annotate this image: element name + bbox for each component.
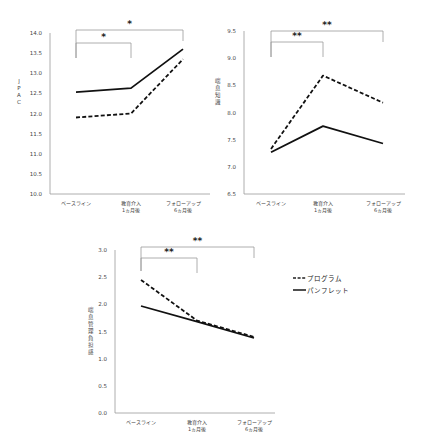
- series-line-pamphlet: [76, 49, 183, 92]
- y-tick-label: 3.0: [98, 247, 107, 253]
- significance-bracket: **: [141, 236, 254, 271]
- y-tick-label: 6.5: [227, 191, 236, 197]
- significance-marker: **: [193, 236, 203, 246]
- y-tick-label: 9.5: [227, 28, 236, 34]
- y-tick-label: 10.0: [30, 191, 43, 197]
- x-tick-label: 教育介入1ヵ月後: [121, 200, 141, 214]
- svg-text:息: 息: [215, 84, 221, 91]
- y-tick-label: 12.0: [30, 111, 43, 117]
- y-tick-label: 2.5: [98, 274, 107, 280]
- x-tick-label: ベースライン: [256, 200, 286, 207]
- svg-text:知: 知: [215, 91, 221, 99]
- y-tick-label: 10.5: [30, 171, 43, 177]
- significance-bracket: **: [271, 31, 323, 57]
- significance-bracket: **: [141, 247, 197, 273]
- y-tick-label: 11.5: [30, 131, 43, 137]
- significance-marker: *: [127, 19, 132, 29]
- significance-bracket: *: [76, 19, 183, 58]
- svg-text:A: A: [17, 92, 21, 98]
- svg-text:喘: 喘: [215, 77, 221, 85]
- significance-marker: *: [101, 32, 106, 42]
- y-tick-label: 13.0: [30, 70, 43, 76]
- x-tick-label: 教育介入1ヵ月後: [313, 200, 333, 214]
- chart-asthma-knowledge: 6.57.07.58.08.59.09.5喘息知識ベースライン教育介入1ヵ月後フ…: [215, 20, 405, 214]
- x-tick-label: フォローアップ6ヵ月後: [166, 200, 201, 214]
- legend-label-pamphlet: パンフレット: [307, 287, 349, 295]
- significance-bracket: *: [76, 32, 131, 58]
- figure: 10.010.511.011.512.012.513.013.514.0JPAC…: [0, 0, 422, 446]
- svg-text:J: J: [17, 78, 20, 85]
- y-tick-label: 11.0: [30, 151, 43, 157]
- svg-text:感: 感: [88, 348, 94, 355]
- x-tick-label: 教育介入1ヵ月後: [187, 419, 207, 433]
- significance-marker: **: [292, 31, 302, 41]
- x-tick-label: ベースライン: [126, 419, 156, 426]
- svg-text:喘: 喘: [88, 306, 94, 314]
- chart-asthma-management-burden: 0.00.51.01.52.02.53.0喘息管理負担感ベースライン教育介入1ヵ…: [88, 236, 275, 433]
- bracket-line: [271, 31, 383, 57]
- svg-text:識: 識: [215, 98, 221, 106]
- bracket-line: [141, 258, 197, 273]
- svg-text:息: 息: [88, 313, 94, 320]
- y-tick-label: 2.0: [98, 301, 107, 307]
- series-line-program: [141, 280, 254, 337]
- svg-text:C: C: [17, 99, 21, 105]
- significance-marker: **: [322, 20, 332, 30]
- y-tick-label: 7.5: [227, 137, 236, 143]
- y-tick-label: 1.0: [98, 356, 107, 362]
- y-tick-label: 8.0: [227, 110, 236, 116]
- y-tick-label: 9.0: [227, 55, 236, 61]
- y-tick-label: 8.5: [227, 82, 236, 88]
- series-line-pamphlet: [141, 306, 254, 338]
- x-tick-label: ベースライン: [61, 200, 91, 207]
- y-tick-label: 7.0: [227, 164, 236, 170]
- svg-text:負: 負: [88, 334, 94, 342]
- svg-text:理: 理: [88, 328, 94, 334]
- series-line-pamphlet: [271, 126, 383, 152]
- svg-text:管: 管: [88, 320, 94, 328]
- significance-bracket: **: [271, 20, 383, 57]
- svg-text:担: 担: [88, 341, 94, 348]
- legend: プログラム パンフレット: [293, 274, 349, 295]
- y-tick-label: 1.5: [98, 329, 107, 335]
- y-axis-label: 喘息管理負担感: [88, 306, 94, 355]
- significance-marker: **: [164, 247, 174, 257]
- y-tick-label: 13.5: [30, 50, 43, 56]
- x-tick-label: フォローアップ6ヵ月後: [366, 200, 401, 214]
- bracket-line: [271, 42, 323, 57]
- bracket-line: [76, 43, 131, 58]
- bracket-line: [141, 247, 254, 271]
- y-tick-label: 14.0: [30, 30, 43, 36]
- chart-jpac: 10.010.511.011.512.012.513.013.514.0JPAC…: [17, 19, 210, 214]
- legend-label-program: プログラム: [307, 274, 342, 283]
- y-tick-label: 12.5: [30, 90, 43, 96]
- svg-text:P: P: [17, 85, 21, 91]
- y-axis-label: JPAC: [17, 78, 21, 105]
- y-tick-label: 0.5: [98, 383, 107, 389]
- bracket-line: [76, 30, 183, 58]
- y-tick-label: 0.0: [98, 410, 107, 416]
- x-tick-label: フォローアップ6ヵ月後: [237, 419, 272, 433]
- y-axis-label: 喘息知識: [215, 77, 221, 106]
